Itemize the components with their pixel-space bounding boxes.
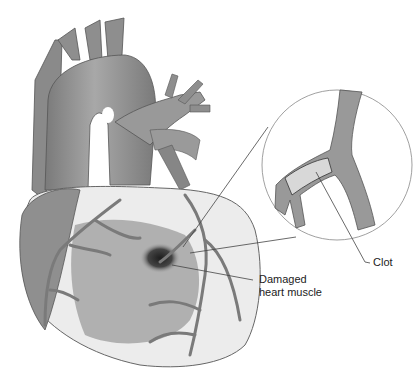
damaged-muscle-label-line1: Damaged bbox=[259, 273, 322, 286]
heart-illustration bbox=[0, 0, 420, 384]
great-vessels bbox=[32, 18, 210, 200]
damaged-muscle-label-line2: heart muscle bbox=[259, 286, 322, 299]
heart-body bbox=[20, 186, 260, 366]
clot-label: Clot bbox=[373, 256, 393, 269]
damaged-muscle-label: Damaged heart muscle bbox=[259, 273, 322, 299]
magnified-artery-view bbox=[262, 90, 412, 240]
damaged-muscle-area bbox=[140, 243, 180, 273]
